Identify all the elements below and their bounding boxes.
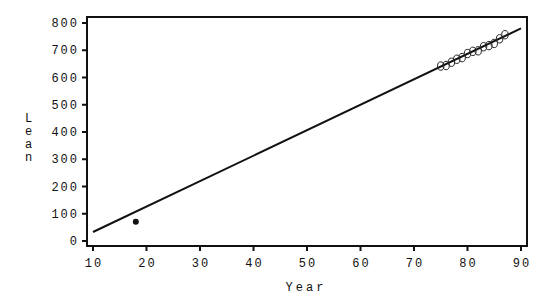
- y-tick-label: 0: [70, 235, 79, 249]
- x-tick-label: 10: [85, 257, 103, 271]
- x-tick-label: 30: [192, 257, 210, 271]
- y-tick-label: 600: [51, 72, 79, 86]
- y-axis-title-letter: n: [25, 151, 35, 165]
- predicted-point: [133, 219, 139, 225]
- x-tick-label: 90: [513, 257, 531, 271]
- y-axis-title: Lean: [25, 112, 35, 165]
- x-tick-label: 40: [245, 257, 263, 271]
- x-axis: 102030405060708090: [85, 246, 531, 271]
- y-axis-title-letter: a: [25, 138, 35, 152]
- y-tick-label: 300: [51, 153, 79, 167]
- x-axis-title: Year: [286, 281, 327, 295]
- y-tick-label: 100: [51, 208, 79, 222]
- chart: 0100200300400500600700800 10203040506070…: [0, 0, 554, 305]
- fitted-line: [93, 28, 521, 232]
- x-tick-label: 60: [352, 257, 370, 271]
- y-tick-label: 200: [51, 181, 79, 195]
- y-tick-label: 400: [51, 126, 79, 140]
- y-tick-label: 800: [51, 17, 79, 31]
- y-tick-label: 500: [51, 99, 79, 113]
- plot-area: [93, 28, 521, 232]
- x-tick-label: 70: [406, 257, 424, 271]
- y-tick-label: 700: [51, 44, 79, 58]
- x-tick-label: 80: [459, 257, 477, 271]
- y-axis: 0100200300400500600700800: [51, 17, 87, 249]
- x-tick-label: 50: [299, 257, 317, 271]
- x-tick-label: 20: [138, 257, 156, 271]
- y-axis-title-letter: L: [25, 112, 35, 126]
- y-axis-title-letter: e: [25, 125, 35, 139]
- plot-frame: [87, 17, 527, 246]
